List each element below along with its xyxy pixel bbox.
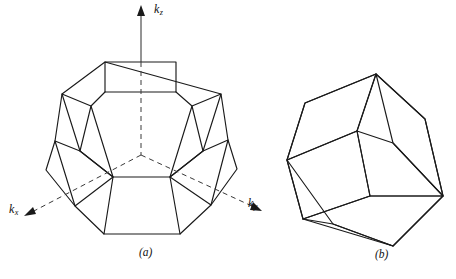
upper-right-hexagon-edge bbox=[176, 92, 203, 151]
ky-axis-line bbox=[141, 155, 254, 207]
left-square-face bbox=[62, 94, 113, 177]
rd-top-left-rhombus bbox=[287, 74, 376, 160]
truncated-octahedron bbox=[24, 5, 262, 234]
right-square-face bbox=[170, 94, 221, 177]
ky-axis-label: ky bbox=[248, 197, 257, 211]
rd-top-right-rhombus bbox=[376, 74, 443, 196]
figure-root: kz kx ky (a) (b) bbox=[0, 0, 456, 279]
rhombic-dodecahedron bbox=[287, 74, 443, 246]
panel-caption-b: (b) bbox=[375, 249, 388, 261]
kz-axis-arrowhead bbox=[137, 5, 145, 16]
rd-central-edge bbox=[357, 74, 376, 131]
kx-axis-label: kx bbox=[9, 203, 18, 217]
panel-caption-a: (a) bbox=[139, 247, 152, 259]
front-hexagon-right-leg bbox=[170, 177, 180, 234]
front-hexagon-left-leg bbox=[104, 177, 113, 234]
rd-lower-left-edge bbox=[287, 160, 303, 219]
upper-left-hexagon-edge bbox=[80, 92, 105, 151]
kz-axis-label: kz bbox=[154, 3, 163, 17]
figure-svg bbox=[0, 0, 456, 279]
kx-axis-arrowhead bbox=[24, 207, 36, 216]
